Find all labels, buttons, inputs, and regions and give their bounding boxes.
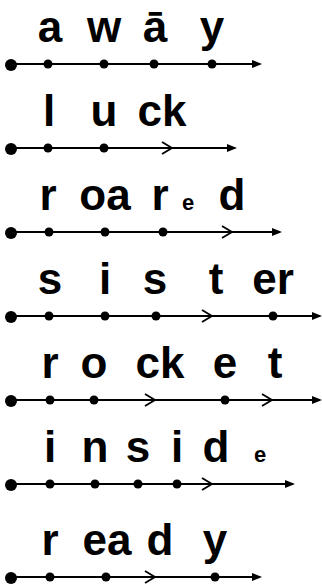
sound-segment: t — [268, 338, 283, 387]
sound-dot-icon — [152, 312, 161, 321]
sound-segment: r — [39, 170, 56, 219]
sound-segment: u — [91, 86, 118, 135]
word-row-sister: sister — [5, 254, 322, 323]
sound-segment: e — [254, 442, 266, 467]
arrowhead-icon — [285, 480, 295, 488]
start-dot-icon — [5, 479, 17, 491]
sound-dot-icon — [134, 480, 143, 489]
arrowhead-icon — [272, 228, 282, 236]
sound-dot-icon — [208, 60, 217, 69]
arrowhead-icon — [312, 396, 322, 404]
start-dot-icon — [5, 311, 17, 323]
sound-dot-icon — [45, 228, 54, 237]
sound-dot-icon — [269, 312, 278, 321]
arrowhead-icon — [227, 144, 237, 152]
sound-dot-icon — [46, 396, 55, 405]
start-dot-icon — [5, 59, 17, 71]
diagram-canvas: awāyluckroaredsisterrocketinsideready — [0, 0, 322, 586]
sound-dot-icon — [101, 228, 110, 237]
sound-segment: i — [99, 254, 111, 303]
sound-dot-icon — [100, 144, 109, 153]
sound-segment: n — [82, 422, 109, 471]
sound-dot-icon — [173, 480, 182, 489]
word-row-luck: luck — [5, 86, 237, 155]
arrowhead-icon — [252, 573, 262, 581]
word-row-roared: roared — [5, 170, 282, 239]
sound-dot-icon — [159, 228, 168, 237]
sound-segment: r — [41, 515, 58, 564]
start-dot-icon — [5, 395, 17, 407]
sound-segment: a — [38, 2, 63, 51]
sound-segment: d — [219, 170, 246, 219]
sound-dot-icon — [221, 396, 230, 405]
sound-segment: s — [38, 254, 62, 303]
sound-dot-icon — [46, 573, 55, 582]
sound-segment: e — [213, 338, 237, 387]
arrowhead-icon — [312, 312, 322, 320]
sound-segment: y — [203, 515, 228, 564]
sound-segment: d — [147, 515, 174, 564]
sound-dot-icon — [101, 312, 110, 321]
sound-segment: oa — [79, 170, 131, 219]
word-row-ready: ready — [5, 515, 262, 584]
sound-segment: s — [143, 254, 167, 303]
sound-dot-icon — [150, 60, 159, 69]
sound-segment: o — [81, 338, 108, 387]
sound-segment: y — [200, 2, 225, 51]
arrowhead-icon — [252, 60, 262, 68]
sound-dot-icon — [44, 60, 53, 69]
sound-segment: ck — [136, 338, 185, 387]
sound-segment: w — [86, 2, 122, 51]
start-dot-icon — [5, 227, 17, 239]
word-row-inside: inside — [5, 422, 295, 491]
sound-segment: i — [171, 422, 183, 471]
sound-dot-icon — [211, 573, 220, 582]
sound-segment: ck — [138, 86, 187, 135]
start-dot-icon — [5, 572, 17, 584]
sound-dot-icon — [44, 144, 53, 153]
sound-dot-icon — [90, 396, 99, 405]
sound-segment: r — [151, 170, 168, 219]
phonics-diagram: awāyluckroaredsisterrocketinsideready — [0, 0, 322, 586]
sound-segment: i — [44, 422, 56, 471]
sound-segment: s — [126, 422, 150, 471]
sound-dot-icon — [100, 60, 109, 69]
sound-dot-icon — [46, 480, 55, 489]
sound-segment: ā — [143, 2, 168, 51]
word-row-rocket: rocket — [5, 338, 322, 407]
sound-segment: ea — [83, 515, 132, 564]
sound-segment: l — [43, 86, 55, 135]
sound-dot-icon — [91, 480, 100, 489]
sound-segment: er — [252, 254, 294, 303]
sound-segment: e — [182, 190, 194, 215]
sound-dot-icon — [45, 312, 54, 321]
start-dot-icon — [5, 143, 17, 155]
sound-dot-icon — [102, 573, 111, 582]
sound-segment: t — [209, 254, 224, 303]
sound-segment: r — [41, 338, 58, 387]
word-row-away: awāy — [5, 2, 262, 71]
sound-segment: d — [203, 422, 230, 471]
